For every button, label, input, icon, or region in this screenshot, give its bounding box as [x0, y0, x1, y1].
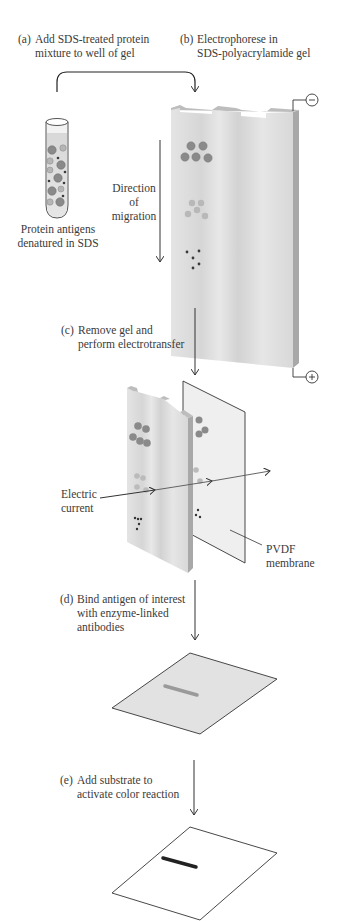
negative-electrode [293, 94, 318, 111]
test-tube [46, 119, 68, 219]
transfer-arrow [57, 72, 195, 92]
step-letter: (e) [60, 773, 73, 787]
migration-label: Direction of migration [110, 181, 158, 223]
gel-slab [171, 105, 299, 368]
electrotransfer-assembly [127, 381, 245, 573]
membrane-color-developed [112, 827, 277, 920]
step-letter: (b) [180, 32, 193, 46]
electric-current-label: Electric current [61, 487, 97, 515]
step-letter: (d) [60, 592, 73, 606]
membrane-antibody-bound [112, 653, 277, 734]
membrane-label: PVDF membrane [266, 542, 315, 570]
step-letter: (a) [18, 32, 31, 46]
tube-label: Protein antigens denatured in SDS [14, 222, 102, 250]
positive-electrode [293, 368, 318, 383]
step-letter: (c) [61, 323, 74, 337]
